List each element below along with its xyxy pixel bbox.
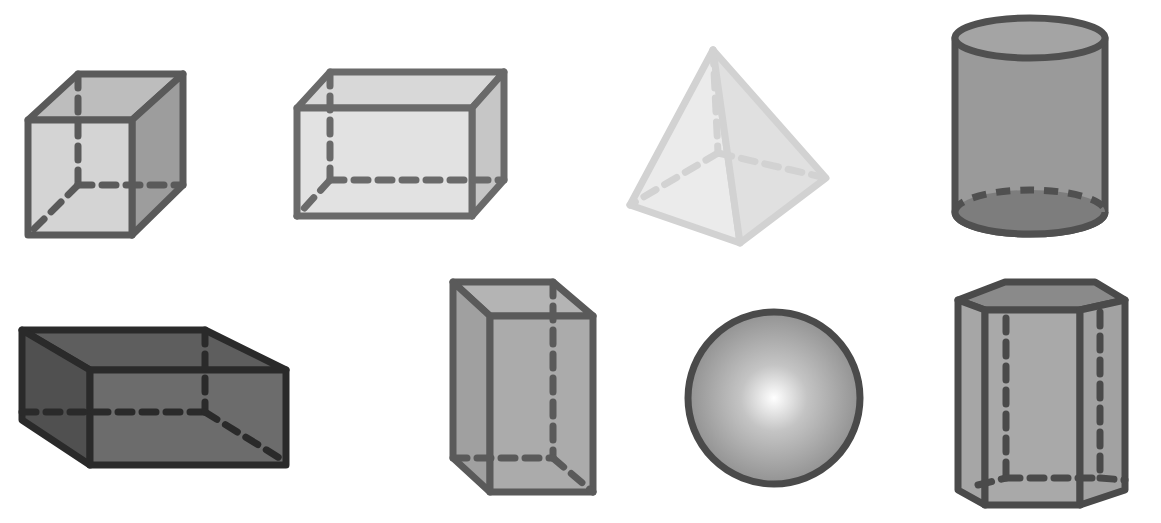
cylinder-shape	[955, 18, 1105, 234]
square-pyramid-shape	[630, 50, 826, 243]
hexagonal-prism-shape	[958, 282, 1125, 505]
cube-shape	[28, 74, 183, 235]
solids-diagram	[0, 0, 1161, 523]
sphere-shape	[688, 312, 860, 484]
rectangular-prism-dark-shape	[22, 330, 286, 465]
rectangular-prism-wide-shape	[297, 72, 504, 216]
rectangular-prism-tall-shape	[453, 282, 593, 492]
